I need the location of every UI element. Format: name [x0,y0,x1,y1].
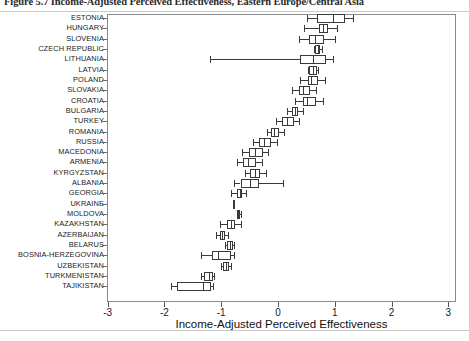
cap-low [299,36,300,43]
cap-high [234,242,235,249]
median-line [333,14,334,23]
whisker-low [242,152,249,153]
whisker-high [259,183,283,184]
cap-low [295,98,296,105]
cap-high [335,36,336,43]
cap-low [216,232,217,239]
cap-high [246,190,247,197]
cap-high [262,159,263,166]
median-line [238,210,239,219]
box-iqr [177,282,211,291]
median-line [307,97,308,106]
top-divider [0,11,469,12]
x-tick-label: 1 [315,307,355,318]
cap-low [287,108,288,115]
median-line [209,272,210,281]
cap-low [267,129,268,136]
cap-high [214,273,215,280]
median-line [318,45,319,54]
median-line [255,148,256,157]
cap-high [323,98,324,105]
box-iqr [259,138,271,147]
cap-low [210,56,211,63]
median-line [248,158,249,167]
whisker-low [292,90,299,91]
median-line [226,262,227,271]
median-line [323,24,324,33]
median-line [233,200,234,209]
cap-low [221,263,222,270]
cap-high [325,77,326,84]
cap-low [201,273,202,280]
cap-low [304,25,305,32]
figure-caption: Figure 5.7 Income-Adjusted Perceived Eff… [4,0,466,8]
cap-high [234,252,235,259]
whisker-low [304,28,319,29]
cap-high [268,149,269,156]
cap-low [220,221,221,228]
x-tick-label: -1 [201,307,241,318]
figure-container: Figure 5.7 Income-Adjusted Perceived Eff… [0,0,469,341]
x-tick-label: -3 [88,307,128,318]
cap-low [234,180,235,187]
cap-high [316,87,317,94]
bottom-divider [0,330,469,331]
whisker-low [307,18,317,19]
x-tick-label: 3 [428,307,468,318]
whisker-high [328,28,337,29]
x-axis-title: Income-Adjusted Perceived Effectiveness [107,318,456,330]
cap-high [318,67,319,74]
cap-low [201,252,202,259]
median-line [230,241,231,250]
x-tick-label: 2 [372,307,412,318]
median-line [255,169,256,178]
median-line [231,220,232,229]
whisker-low [295,101,303,102]
median-line [274,128,275,137]
cap-high [241,211,242,218]
median-line [311,76,312,85]
box-iqr [317,14,345,23]
median-line [295,107,296,116]
cap-low [245,170,246,177]
cap-low [231,190,232,197]
cap-high [266,170,267,177]
cap-high [333,56,334,63]
cap-high [231,263,232,270]
cap-low [242,149,243,156]
box-iqr [303,97,316,106]
whisker-low [300,80,307,81]
median-line [203,282,204,291]
cap-high [284,129,285,136]
cap-low [237,159,238,166]
whisker-low [201,255,212,256]
whisker-high [318,80,325,81]
whisker-low [299,39,309,40]
cap-high [241,221,242,228]
median-line [264,138,265,147]
median-line [240,189,241,198]
cap-low [276,118,277,125]
median-line [315,35,316,44]
whisker-low [220,224,227,225]
median-line [303,86,304,95]
box-iqr [308,76,318,85]
cap-high [322,46,323,53]
box-iqr [299,86,310,95]
median-line [313,66,314,75]
whisker-high [316,101,323,102]
whisker-low [210,59,300,60]
x-tick-label: -2 [144,307,184,318]
boxplot-tajikistan [0,281,469,292]
cap-high [303,108,304,115]
whisker-high [345,18,353,19]
cap-low [300,77,301,84]
cap-low [307,15,308,22]
box-iqr [309,35,324,44]
cap-high [283,180,284,187]
x-tick-label: 0 [258,307,298,318]
cap-high [299,118,300,125]
cap-low [171,283,172,290]
median-line [218,251,219,260]
cap-high [353,15,354,22]
